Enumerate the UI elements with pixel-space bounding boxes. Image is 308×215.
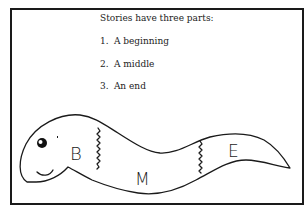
segment-letter-b: B	[70, 143, 82, 164]
segment-divider-1	[97, 128, 100, 169]
segment-letter-m: M	[135, 169, 150, 189]
segment-letter-e: E	[228, 141, 239, 161]
worm-nostril-icon	[57, 136, 58, 138]
segment-divider-2	[199, 141, 202, 173]
worm-outline	[20, 115, 290, 194]
worm-illustration: B M E	[0, 0, 308, 215]
worm-smile-icon	[37, 170, 53, 175]
